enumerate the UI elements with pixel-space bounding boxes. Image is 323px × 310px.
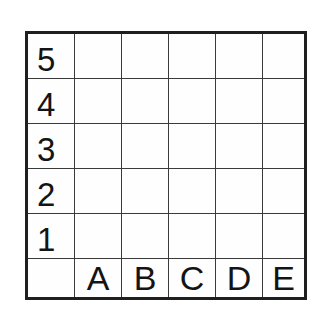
grid-corner-cell	[28, 259, 75, 297]
row-label-4: 4	[28, 79, 75, 124]
cell-b2[interactable]	[122, 169, 169, 214]
coordinate-grid: 5 4 3 2 1 A B	[25, 31, 307, 300]
column-label-text: B	[134, 261, 157, 295]
column-label-text: D	[227, 261, 252, 295]
column-label-text: C	[180, 261, 205, 295]
row-label-text: 3	[37, 133, 55, 166]
row-label-3: 3	[28, 124, 75, 169]
cell-d5[interactable]	[216, 34, 263, 79]
row-label-text: 5	[37, 43, 55, 76]
cell-e2[interactable]	[263, 169, 304, 214]
column-label-b: B	[122, 259, 169, 297]
cell-a1[interactable]	[75, 214, 122, 259]
column-label-c: C	[169, 259, 216, 297]
column-label-e: E	[263, 259, 304, 297]
cell-c2[interactable]	[169, 169, 216, 214]
cell-c5[interactable]	[169, 34, 216, 79]
cell-c4[interactable]	[169, 79, 216, 124]
cell-d1[interactable]	[216, 214, 263, 259]
cell-b5[interactable]	[122, 34, 169, 79]
cell-d4[interactable]	[216, 79, 263, 124]
cell-a3[interactable]	[75, 124, 122, 169]
cell-a2[interactable]	[75, 169, 122, 214]
cell-e5[interactable]	[263, 34, 304, 79]
row-label-5: 5	[28, 34, 75, 79]
cell-a4[interactable]	[75, 79, 122, 124]
column-label-a: A	[75, 259, 122, 297]
cell-a5[interactable]	[75, 34, 122, 79]
row-label-2: 2	[28, 169, 75, 214]
row-label-text: 1	[37, 223, 55, 256]
column-label-d: D	[216, 259, 263, 297]
cell-d3[interactable]	[216, 124, 263, 169]
cell-e4[interactable]	[263, 79, 304, 124]
cell-c1[interactable]	[169, 214, 216, 259]
grid-figure: 5 4 3 2 1 A B	[0, 0, 323, 310]
row-label-text: 4	[37, 88, 55, 121]
cell-e3[interactable]	[263, 124, 304, 169]
row-label-text: 2	[37, 178, 55, 211]
cell-b3[interactable]	[122, 124, 169, 169]
row-label-1: 1	[28, 214, 75, 259]
column-label-text: E	[272, 261, 295, 295]
cell-d2[interactable]	[216, 169, 263, 214]
cell-e1[interactable]	[263, 214, 304, 259]
cell-c3[interactable]	[169, 124, 216, 169]
cell-b1[interactable]	[122, 214, 169, 259]
column-label-text: A	[87, 261, 110, 295]
cell-b4[interactable]	[122, 79, 169, 124]
